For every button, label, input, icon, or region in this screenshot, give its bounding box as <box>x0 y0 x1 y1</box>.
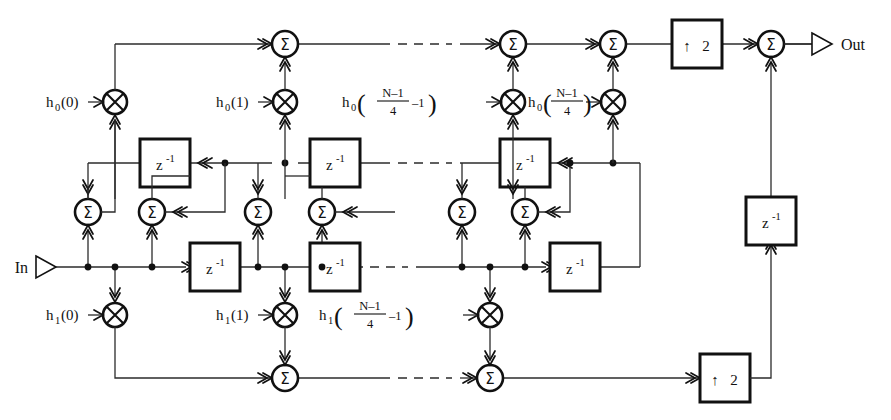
coef-arg: (0) <box>61 307 79 324</box>
delay-exponent: -1 <box>336 257 345 268</box>
fraction-denominator: 4 <box>367 317 374 331</box>
coef-arg: (1) <box>231 94 249 111</box>
delay-base: z <box>156 157 163 173</box>
coef-base: h <box>216 94 224 110</box>
adder-symbol: Σ <box>253 204 262 222</box>
delay-exponent: -1 <box>216 257 225 268</box>
delay-base: z <box>326 261 333 277</box>
label-h1-n-1: h 1 ( N–1 4 –1 ) <box>319 299 414 331</box>
top-mult-to-sum-wires <box>115 44 618 90</box>
fraction-numerator: N–1 <box>359 299 381 313</box>
up-arrow-icon: ↑ <box>683 38 691 54</box>
input-label: In <box>15 259 28 276</box>
coef-base: h <box>46 307 54 323</box>
delay-output-feedback: z -1 <box>746 197 796 245</box>
coef-base: h <box>319 307 327 323</box>
upsample-factor: 2 <box>702 38 710 54</box>
coef-sub: 0 <box>351 102 356 113</box>
adder-symbol: Σ <box>766 36 775 54</box>
coef-sub: 1 <box>225 315 230 326</box>
adder-top-2: Σ <box>500 31 526 57</box>
delay-base: z <box>566 261 573 277</box>
upsampler-top: ↑ 2 <box>672 20 722 68</box>
fraction-tail: –1 <box>411 96 425 110</box>
coef-base: h <box>46 94 54 110</box>
input-terminal: In <box>15 256 140 278</box>
adder-symbol: Σ <box>457 204 466 222</box>
adder-top-1: Σ <box>272 31 298 57</box>
output-label: Out <box>841 36 866 53</box>
adder-output: Σ <box>758 31 784 57</box>
close-paren: ) <box>583 89 592 118</box>
coef-sub: 1 <box>328 315 333 326</box>
adder-bottom-1: Σ <box>272 365 298 391</box>
coef-base: h <box>342 94 350 110</box>
fraction-tail: –1 <box>388 309 402 323</box>
adder-top-3: Σ <box>600 31 626 57</box>
delay-upper-1: z -1 <box>140 139 190 187</box>
coef-base: h <box>216 307 224 323</box>
adder-lattice-4: Σ <box>309 199 335 225</box>
multiplier-h1-0 <box>103 303 127 327</box>
multiplier-h0-n-1 <box>501 90 525 114</box>
coef-arg: (1) <box>231 307 249 324</box>
adder-lattice-2: Σ <box>139 199 165 225</box>
adder-bottom-2: Σ <box>477 365 503 391</box>
output-terminal: Out <box>784 33 866 55</box>
delay-lower-2: z -1 <box>310 243 360 291</box>
close-paren: ) <box>428 89 437 118</box>
coef-sub: 0 <box>225 102 230 113</box>
delay-exponent: -1 <box>336 153 345 164</box>
coef-sub: 1 <box>55 315 60 326</box>
fraction-numerator: N–1 <box>382 86 404 100</box>
label-h0-0: h 0 (0) <box>46 94 79 113</box>
adder-symbol: Σ <box>508 36 517 54</box>
adder-symbol: Σ <box>83 204 92 222</box>
delay-lower-3: z -1 <box>550 243 600 291</box>
open-paren: ( <box>543 89 552 118</box>
multiplier-h0-0 <box>103 90 127 114</box>
adder-symbol: Σ <box>485 370 494 388</box>
label-h0-n: h 0 ( N–1 4 ) <box>528 86 592 118</box>
upsampler-bottom: ↑ 2 <box>700 354 750 402</box>
adder-symbol: Σ <box>608 36 617 54</box>
close-paren: ) <box>405 302 414 331</box>
delay-exponent: -1 <box>526 153 535 164</box>
up-arrow-icon: ↑ <box>711 372 719 388</box>
label-h0-1: h 0 (1) <box>216 94 249 113</box>
open-paren: ( <box>334 302 343 331</box>
multiplier-h0-n <box>601 90 625 114</box>
adder-lattice-6: Σ <box>512 199 538 225</box>
multiplier-h0-1 <box>273 90 297 114</box>
bottom-summing-line <box>115 327 700 383</box>
adder-lattice-5: Σ <box>449 199 475 225</box>
upsample-factor: 2 <box>730 372 738 388</box>
delay-base: z <box>516 157 523 173</box>
coef-base: h <box>528 94 536 110</box>
bottom-mult-to-sum-wires <box>280 327 495 365</box>
delay-lower-1: z -1 <box>190 243 240 291</box>
coef-sub: 0 <box>55 102 60 113</box>
multiplier-h1-1 <box>273 303 297 327</box>
fraction-denominator: 4 <box>564 104 571 118</box>
delay-exponent: -1 <box>772 211 781 222</box>
delay-base: z <box>326 157 333 173</box>
fraction-denominator: 4 <box>390 104 397 118</box>
adder-lattice-3: Σ <box>245 199 271 225</box>
output-terminal-triangle <box>812 33 832 55</box>
coef-sub: 0 <box>537 102 542 113</box>
delay-upper-2: z -1 <box>310 139 360 187</box>
lower-to-bottom-mult-wires <box>110 264 495 302</box>
multiplier-h1-n-1 <box>478 303 502 327</box>
input-terminal-triangle <box>36 256 56 278</box>
fraction-numerator: N–1 <box>556 86 578 100</box>
adder-symbol: Σ <box>147 204 156 222</box>
label-h1-0: h 1 (0) <box>46 307 79 326</box>
adder-symbol: Σ <box>280 36 289 54</box>
coef-arg: (0) <box>61 94 79 111</box>
delay-exponent: -1 <box>576 257 585 268</box>
label-h0-n-1: h 0 ( N–1 4 –1 ) <box>342 86 437 118</box>
open-paren: ( <box>357 89 366 118</box>
filter-bank-block-diagram: Σ Σ Σ Σ ↑ 2 Out <box>0 0 891 420</box>
delay-base: z <box>206 261 213 277</box>
